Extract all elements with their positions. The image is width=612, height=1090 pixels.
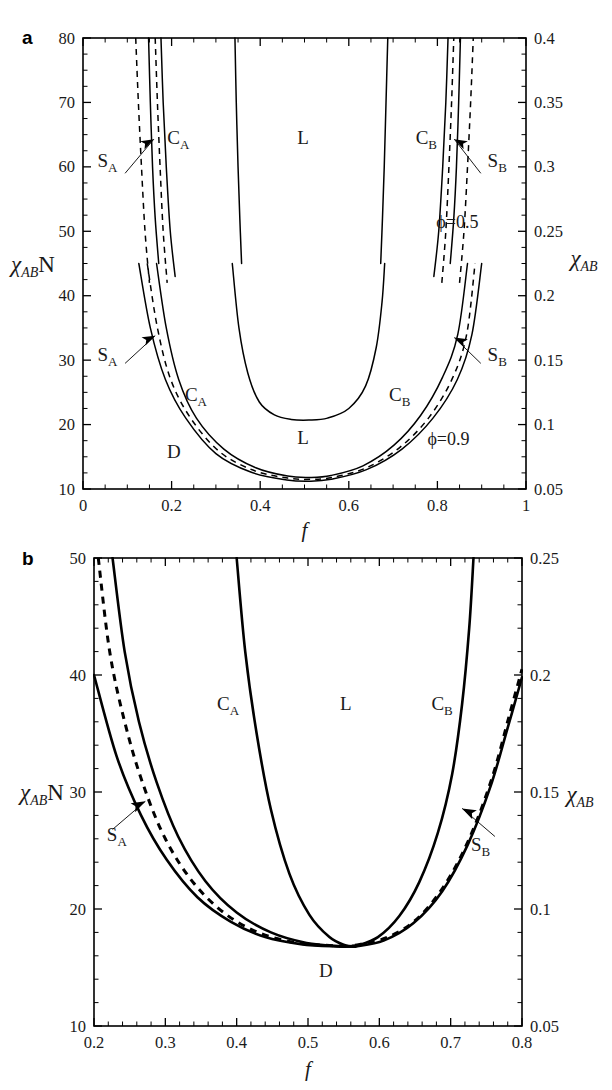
- y-axis-title-right: χAB: [564, 782, 594, 810]
- panel-b: b 0.20.30.40.50.60.70.810203040500.050.1…: [0, 530, 612, 1090]
- x-tick-label: 0.3: [155, 1033, 176, 1052]
- phase-label-C_A-upper: CA: [167, 127, 190, 152]
- x-tick-label: 0.6: [338, 496, 359, 515]
- phase-boundary-curve: [235, 38, 242, 264]
- phase-label-L-upper: L: [297, 127, 309, 148]
- y-tick-label-left: 80: [59, 29, 76, 48]
- y-tick-label-right: 0.25: [530, 549, 559, 568]
- y-tick-label-right: 0.2: [530, 666, 551, 685]
- y-tick-label-right: 0.3: [534, 157, 555, 176]
- y-tick-label-right: 0.1: [530, 900, 551, 919]
- phase-label-S_B-lower: SB: [488, 344, 508, 369]
- x-tick-label: 0.5: [298, 1033, 319, 1052]
- x-tick-label: 0.2: [161, 496, 182, 515]
- y-tick-label-left: 20: [59, 415, 76, 434]
- phase-label-C_A-region: CA: [217, 693, 240, 718]
- y-tick-label-left: 50: [70, 549, 87, 568]
- figure-caption-fragment: [8, 1074, 608, 1088]
- phase-boundary-curve: [434, 38, 448, 276]
- annotations: ϕ=0.5ϕ=0.9: [427, 212, 478, 449]
- phase-boundary-curve: [157, 264, 468, 478]
- phase-label-S_A-label: SA: [107, 824, 128, 849]
- phase-boundary-curve: [355, 558, 473, 946]
- y-tick-label-right: 0.4: [534, 29, 555, 48]
- phase-boundary-curve: [232, 264, 384, 421]
- phase-label-S_A-upper: SA: [97, 150, 118, 175]
- x-tick-label: 0.4: [250, 496, 271, 515]
- phase-label-S_B-label: SB: [471, 834, 491, 859]
- plot-frame: [83, 38, 526, 489]
- sb-b-arrowhead: [460, 804, 477, 819]
- y-tick-label-left: 40: [59, 286, 76, 305]
- y-tick-label-left: 50: [59, 222, 76, 241]
- phase-boundary-curve: [355, 677, 522, 946]
- phase-label-L-region: L: [340, 693, 352, 714]
- annotation-phi-upper: ϕ=0.5: [436, 212, 478, 232]
- phase-boundary-curve: [94, 675, 355, 947]
- phase-boundary-curve: [147, 264, 475, 480]
- x-tick-label: 1: [522, 496, 530, 515]
- y-tick-label-left: 30: [59, 351, 76, 370]
- sa-upper-arrowhead: [140, 135, 156, 149]
- phase-boundary-curve: [149, 38, 159, 264]
- y-tick-label-right: 0.15: [530, 783, 559, 802]
- x-tick-label: 0: [79, 496, 87, 515]
- y-tick-label-left: 20: [70, 900, 87, 919]
- phase-label-D-region: D: [167, 441, 181, 462]
- phase-label-D-region: D: [319, 960, 333, 981]
- x-tick-label: 0.6: [369, 1033, 390, 1052]
- y-tick-label-left: 30: [70, 783, 87, 802]
- y-tick-label-right: 0.05: [534, 480, 563, 499]
- y-tick-label-left: 10: [59, 480, 76, 499]
- phase-label-C_B-upper: CB: [416, 127, 438, 152]
- phase-label-S_B-upper: SB: [488, 150, 508, 175]
- x-tick-label: 0.7: [440, 1033, 461, 1052]
- y-axis-title-right: χAB: [568, 246, 598, 274]
- phase-label-C_A-lower: CA: [185, 384, 208, 409]
- y-tick-label-right: 0.35: [534, 93, 563, 112]
- annotation-phi-lower: ϕ=0.9: [427, 429, 469, 449]
- phase-label-S_A-lower: SA: [97, 344, 118, 369]
- leader-lines: [125, 135, 481, 363]
- x-tick-label: 0.8: [512, 1033, 533, 1052]
- plot-frame: [94, 558, 522, 1026]
- panel-b-plot: 0.20.30.40.50.60.70.810203040500.050.10.…: [0, 530, 612, 1090]
- y-axis-title-left: χABN: [9, 252, 55, 280]
- phase-boundary-curve: [237, 558, 355, 946]
- curves-group: [136, 38, 482, 481]
- axes-group: 00.20.40.60.8110203040506070800.050.10.1…: [59, 29, 563, 516]
- axis-titles: fχABNχAB: [9, 246, 598, 543]
- y-tick-label-left: 60: [59, 157, 76, 176]
- phase-boundary-curve: [98, 558, 355, 946]
- panel-a-plot: 00.20.40.60.8110203040506070800.050.10.1…: [0, 0, 612, 545]
- x-tick-label: 0.2: [84, 1033, 105, 1052]
- phase-boundary-curve: [136, 38, 150, 283]
- y-tick-label-right: 0.25: [534, 222, 563, 241]
- phase-label-C_B-lower: CB: [389, 384, 411, 409]
- y-tick-label-left: 70: [59, 93, 76, 112]
- panel-a: a 00.20.40.60.8110203040506070800.050.10…: [0, 0, 612, 545]
- y-tick-label-right: 0.15: [534, 351, 563, 370]
- y-tick-label-right: 0.1: [534, 415, 555, 434]
- phase-label-C_B-region: CB: [431, 693, 453, 718]
- figure-root: a 00.20.40.60.8110203040506070800.050.10…: [0, 0, 612, 1090]
- phase-boundary-curve: [113, 558, 356, 947]
- y-tick-label-left: 40: [70, 666, 87, 685]
- curves-group: [94, 558, 522, 947]
- phase-boundary-curve: [381, 38, 388, 264]
- x-tick-label: 0.4: [226, 1033, 247, 1052]
- sa-upper-leader: [125, 139, 154, 173]
- phase-label-L-lower: L: [297, 427, 309, 448]
- y-tick-label-right: 0.05: [530, 1017, 559, 1036]
- y-axis-title-left: χABN: [18, 780, 64, 808]
- y-tick-label-left: 10: [70, 1017, 87, 1036]
- phase-labels: SACALCBSBSACALCBSBD: [97, 127, 507, 462]
- y-tick-label-right: 0.2: [534, 286, 555, 305]
- x-tick-label: 0.8: [427, 496, 448, 515]
